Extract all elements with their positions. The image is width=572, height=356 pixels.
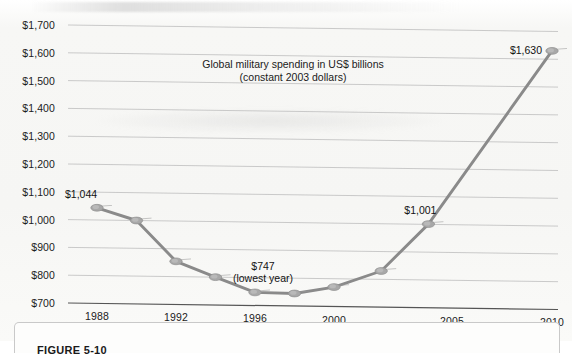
x-axis-tick-label: 1988: [85, 310, 109, 322]
y-axis-tick-label: $1,500: [0, 75, 55, 87]
y-axis-tick-label: $1,100: [0, 186, 55, 198]
data-point-marker: [546, 47, 567, 54]
y-axis-tick-label: $900: [0, 241, 55, 253]
data-series-military-spending: [97, 51, 552, 294]
y-axis-tick-label: $1,600: [0, 47, 55, 59]
data-point-marker: [328, 284, 349, 291]
lowest-year-note: (lowest year): [233, 272, 293, 284]
mid-point-label: $1,001: [404, 204, 436, 216]
y-axis-tick-label: $1,300: [0, 130, 55, 142]
data-point-markers: [91, 47, 567, 296]
y-axis-tick-label: $800: [0, 269, 55, 281]
y-axis-tick-label: $1,400: [0, 102, 55, 114]
y-axis-tick-label: $700: [0, 297, 55, 309]
figure-caption-label: FIGURE 5-10: [37, 344, 107, 356]
lowest-value-label: $747: [251, 260, 274, 272]
figure-caption-box: FIGURE 5-10: [14, 322, 560, 353]
chart-axes: [59, 25, 68, 303]
chart-title-line1: Global military spending in US$ billions: [168, 58, 418, 71]
chart-title-line2: (constant 2003 dollars): [168, 71, 418, 84]
last-point-label: $1,630: [460, 44, 542, 56]
y-axis-tick-label: $1,000: [0, 214, 55, 226]
data-point-marker: [170, 258, 191, 265]
first-point-label: $1,044: [65, 188, 97, 200]
data-point-marker: [288, 290, 309, 297]
chart-title: Global military spending in US$ billions…: [168, 58, 418, 84]
y-axis-tick-label: $1,700: [0, 19, 55, 31]
data-point-marker: [375, 268, 396, 275]
y-axis-tick-label: $1,200: [0, 158, 55, 170]
